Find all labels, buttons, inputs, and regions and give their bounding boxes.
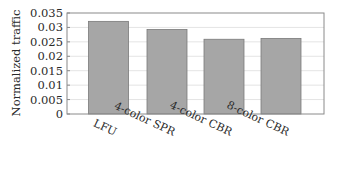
y-axis-label: Normalized traffic bbox=[9, 10, 23, 117]
y-tick-label: 0.015 bbox=[30, 64, 63, 78]
bar-lfu bbox=[89, 21, 129, 114]
bar-chart: 00.0050.010.0150.020.0250.030.035 LFU4-c… bbox=[0, 0, 340, 177]
y-tick-label: 0.025 bbox=[30, 35, 63, 49]
bar-8-color-cbr bbox=[261, 38, 301, 114]
y-tick-label: 0.03 bbox=[37, 20, 63, 34]
y-tick-label: 0.02 bbox=[37, 49, 63, 63]
y-axis-ticks: 00.0050.010.0150.020.0250.030.035 bbox=[30, 6, 70, 121]
y-tick-label: 0 bbox=[56, 107, 63, 121]
x-tick-label: LFU bbox=[91, 117, 118, 139]
y-tick-label: 0.035 bbox=[30, 6, 63, 20]
y-tick-label: 0.01 bbox=[37, 78, 63, 92]
y-tick-label: 0.005 bbox=[30, 93, 63, 107]
